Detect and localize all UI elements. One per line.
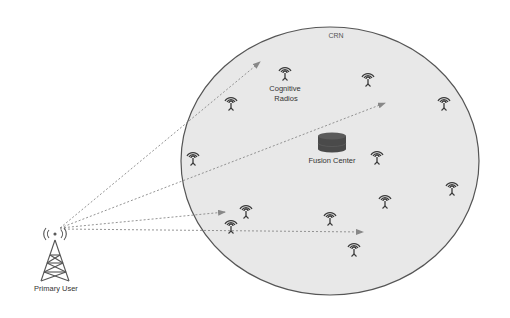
cognitive-radios-label: Cognitive Radios: [269, 84, 302, 103]
cell-tower-icon: [41, 228, 69, 281]
primary-user: Primary User: [34, 228, 78, 293]
fusion-center-label: Fusion Center: [308, 156, 356, 165]
primary-user-label: Primary User: [34, 284, 78, 293]
database-cylinder-icon: [318, 133, 346, 153]
crn-label: CRN: [328, 32, 343, 39]
crn-diagram: CRN Cognitive Radios Fusion Cente: [0, 0, 510, 318]
